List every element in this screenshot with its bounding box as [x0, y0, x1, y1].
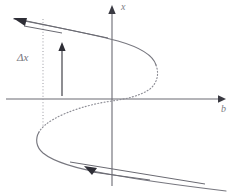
upper-flow-arrow: [13, 18, 108, 38]
lower-flow-arrowhead: [84, 166, 97, 175]
x-axis-arrowhead: [108, 5, 115, 14]
x-axis-label: x: [121, 2, 125, 12]
bifurcation-figure: x b Δx: [0, 0, 234, 194]
upper-flow-line-long: [22, 20, 108, 38]
delta-x-arrowhead: [58, 42, 65, 51]
b-axis-arrowhead: [218, 95, 226, 102]
b-axis-label: b: [221, 104, 226, 114]
upper-flow-arrowhead: [13, 18, 27, 26]
axes-group: [6, 5, 226, 186]
figure-canvas: [0, 0, 234, 194]
delta-x-label: Δx: [17, 52, 28, 63]
lower-flow-arrow: [70, 162, 205, 184]
delta-x-arrow: [58, 42, 65, 96]
lower-stable-branch: [37, 132, 226, 191]
upper-stable-branch: [14, 19, 156, 65]
